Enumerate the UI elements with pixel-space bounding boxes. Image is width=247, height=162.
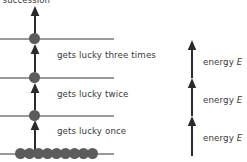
- level-3-dot: [29, 33, 40, 44]
- energy-label-top-text: energy: [203, 57, 234, 67]
- caption-fragment-text: in succession: [0, 0, 50, 5]
- transition-three-arrow: [28, 44, 42, 72]
- energy-label-middle-text: energy: [203, 95, 234, 105]
- level-3-line: [0, 38, 114, 40]
- transition-twice-arrow: [28, 83, 42, 110]
- energy-label-bottom-symbol: E: [237, 133, 243, 143]
- transition-three-label: gets lucky three times: [57, 50, 156, 60]
- level-2-dot: [29, 72, 40, 83]
- energy-label-middle: energy E: [203, 95, 242, 105]
- energy-level-diagram: in succession: [0, 0, 247, 162]
- level-1-line: [0, 115, 114, 117]
- ground-dot: [87, 148, 98, 159]
- energy-label-middle-symbol: E: [237, 95, 243, 105]
- energy-arrow-top: [185, 40, 199, 78]
- energy-label-bottom: energy E: [203, 133, 242, 143]
- transition-twice-label: gets lucky twice: [57, 89, 129, 99]
- transition-once-label: gets lucky once: [57, 126, 126, 136]
- energy-arrow-middle: [185, 78, 199, 116]
- energy-label-top-symbol: E: [237, 57, 243, 67]
- level-2-line: [0, 77, 114, 79]
- level-1-dot: [29, 110, 40, 121]
- energy-label-bottom-text: energy: [203, 133, 234, 143]
- energy-arrow-bottom: [185, 116, 199, 156]
- caption-fragment: in succession: [0, 0, 120, 7]
- transition-once-arrow: [28, 120, 42, 150]
- energy-label-top: energy E: [203, 57, 242, 67]
- escape-arrow: [28, 6, 42, 35]
